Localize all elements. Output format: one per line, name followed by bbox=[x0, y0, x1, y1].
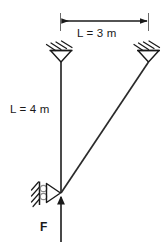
vertical-member-length-label: L = 4 m bbox=[10, 104, 50, 116]
roller-circle-upper bbox=[40, 185, 46, 191]
roller-circle-lower bbox=[40, 193, 46, 199]
support-hatching-top-right bbox=[134, 41, 160, 51]
diagonal-member bbox=[61, 62, 149, 193]
support-triangle-bottom bbox=[47, 184, 61, 203]
support-hatching-top-left bbox=[47, 41, 73, 51]
support-triangle-top-left bbox=[51, 51, 72, 63]
top-left-pin-support bbox=[47, 41, 73, 62]
top-right-pin-support bbox=[134, 41, 160, 62]
span-dimension-label: L = 3 m bbox=[77, 28, 117, 40]
bottom-roller-support bbox=[32, 182, 61, 207]
support-triangle-top-right bbox=[138, 51, 159, 63]
support-wall-hatching-bottom bbox=[32, 182, 40, 207]
statics-diagram-canvas: L = 3 m L = 4 m F bbox=[0, 0, 166, 250]
force-label: F bbox=[40, 221, 48, 233]
